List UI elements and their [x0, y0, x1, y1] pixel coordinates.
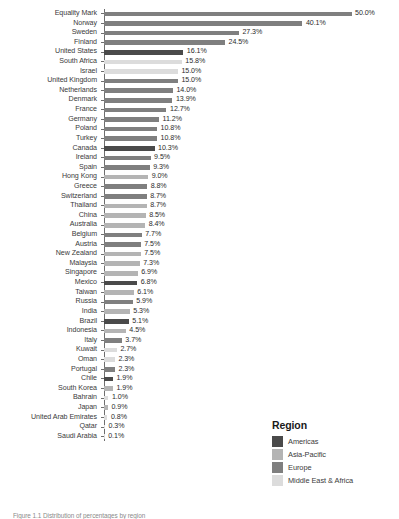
- category-label: Malaysia: [4, 259, 101, 269]
- bar-value-label: 50.0%: [352, 9, 375, 19]
- bar-track: 16.1%: [104, 47, 396, 57]
- axis-wrap: 8.7%: [101, 192, 395, 202]
- category-label: Austria: [4, 240, 101, 250]
- category-label: United Arab Emirates: [4, 413, 101, 423]
- category-label: Sweden: [4, 28, 101, 38]
- category-label: Hong Kong: [4, 172, 101, 182]
- bar-track: 5.9%: [104, 297, 396, 307]
- legend-label: Middle East & Africa: [283, 476, 353, 485]
- bar-track: 8.8%: [104, 182, 396, 192]
- bar-track: 2.3%: [104, 365, 396, 375]
- bar-track: 7.3%: [104, 259, 396, 269]
- axis-wrap: 8.7%: [101, 201, 395, 211]
- bar-value-label: 7.5%: [141, 240, 160, 250]
- axis-wrap: 40.1%: [101, 19, 395, 29]
- bar-value-label: 1.9%: [113, 384, 132, 394]
- bar-value-label: 3.7%: [122, 336, 141, 346]
- axis-wrap: 1.0%: [101, 393, 395, 403]
- category-label: United Kingdom: [4, 76, 101, 86]
- category-label: Oman: [4, 355, 101, 365]
- bar-row: Spain9.3%: [4, 163, 395, 173]
- bar-track: 9.0%: [104, 172, 396, 182]
- category-label: France: [4, 105, 101, 115]
- bar-value-label: 8.7%: [147, 192, 166, 202]
- bar-row: Thailand8.7%: [4, 201, 395, 211]
- axis-wrap: 8.4%: [101, 220, 395, 230]
- bar-value-label: 4.5%: [126, 326, 145, 336]
- bar: [104, 242, 141, 247]
- category-label: Indonesia: [4, 326, 101, 336]
- axis-wrap: 5.3%: [101, 307, 395, 317]
- legend-item: Americas: [272, 435, 396, 448]
- bar-track: 15.8%: [104, 57, 396, 67]
- bar-track: 7.7%: [104, 230, 396, 240]
- category-label: China: [4, 211, 101, 221]
- bar: [104, 136, 158, 141]
- axis-wrap: 10.8%: [101, 134, 395, 144]
- bar: [104, 329, 126, 334]
- bar-track: 7.5%: [104, 249, 396, 259]
- bar-row: Bahrain1.0%: [4, 393, 395, 403]
- axis-wrap: 1.9%: [101, 384, 395, 394]
- bar-value-label: 6.8%: [137, 278, 156, 288]
- category-label: Taiwan: [4, 288, 101, 298]
- axis-wrap: 10.8%: [101, 124, 395, 134]
- axis-wrap: 9.5%: [101, 153, 395, 163]
- bar-value-label: 24.5%: [225, 38, 248, 48]
- bar-row: Hong Kong9.0%: [4, 172, 395, 182]
- axis-wrap: 12.7%: [101, 105, 395, 115]
- axis-wrap: 7.3%: [101, 259, 395, 269]
- bar-track: 50.0%: [104, 9, 396, 19]
- bar-value-label: 0.9%: [108, 403, 127, 413]
- bar-row: Equality Mark50.0%: [4, 9, 395, 19]
- axis-wrap: 10.3%: [101, 144, 395, 154]
- bar-value-label: 2.7%: [117, 345, 136, 355]
- bar-row: South Africa15.8%: [4, 57, 395, 67]
- plot-area: Equality Mark50.0%Norway40.1%Sweden27.3%…: [4, 9, 395, 441]
- bar-value-label: 15.8%: [182, 57, 205, 67]
- bar: [104, 31, 239, 36]
- bar: [104, 281, 138, 286]
- axis-wrap: 4.5%: [101, 326, 395, 336]
- bar-row: Norway40.1%: [4, 19, 395, 29]
- bar-value-label: 2.3%: [115, 355, 134, 365]
- bar: [104, 377, 113, 382]
- axis-wrap: 6.9%: [101, 268, 395, 278]
- bar-value-label: 5.9%: [133, 297, 152, 307]
- bar-value-label: 7.5%: [141, 249, 160, 259]
- bar-track: 1.0%: [104, 393, 396, 403]
- bar-value-label: 12.7%: [166, 105, 189, 115]
- bar-row: Oman2.3%: [4, 355, 395, 365]
- bar-track: 8.7%: [104, 201, 396, 211]
- category-label: Mexico: [4, 278, 101, 288]
- axis-wrap: 50.0%: [101, 9, 395, 19]
- bar-row: Australia8.4%: [4, 220, 395, 230]
- bar-value-label: 15.0%: [178, 76, 201, 86]
- bar-track: 6.1%: [104, 288, 396, 298]
- legend: Region AmericasAsia-PacificEuropeMiddle …: [272, 419, 396, 487]
- bar-row: Israel15.0%: [4, 67, 395, 77]
- axis-wrap: 15.0%: [101, 67, 395, 77]
- axis-wrap: 0.9%: [101, 403, 395, 413]
- bar-value-label: 7.3%: [140, 259, 159, 269]
- bar: [104, 338, 122, 343]
- legend-items: AmericasAsia-PacificEuropeMiddle East & …: [272, 435, 396, 487]
- bar: [104, 233, 142, 238]
- bar-track: 3.7%: [104, 336, 396, 346]
- axis-wrap: 2.7%: [101, 345, 395, 355]
- bar-value-label: 6.1%: [134, 288, 153, 298]
- bar: [104, 12, 352, 17]
- axis-wrap: 15.8%: [101, 57, 395, 67]
- bar: [104, 146, 155, 151]
- bar: [104, 213, 146, 218]
- bar-row: Austria7.5%: [4, 240, 395, 250]
- bar: [104, 223, 146, 228]
- bar-row: Mexico6.8%: [4, 278, 395, 288]
- axis-wrap: 3.7%: [101, 336, 395, 346]
- axis-wrap: 2.3%: [101, 365, 395, 375]
- legend-label: Americas: [283, 437, 318, 446]
- bar: [104, 108, 167, 113]
- category-label: Singapore: [4, 268, 101, 278]
- legend-title: Region: [272, 419, 396, 431]
- axis-wrap: 27.3%: [101, 28, 395, 38]
